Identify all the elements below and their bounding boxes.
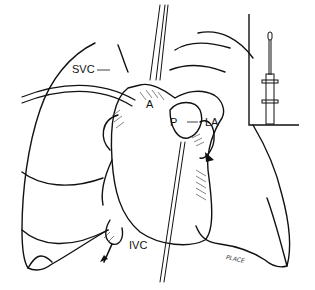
label-pulmonary: P bbox=[170, 117, 177, 128]
label-la: LA bbox=[205, 117, 218, 128]
label-svc: SVC bbox=[72, 64, 95, 75]
pulmonary-cannula bbox=[160, 142, 185, 282]
label-aorta: A bbox=[146, 99, 153, 110]
illustration: SVC A P LA IVC PLACE bbox=[0, 0, 315, 290]
left-lung-outline bbox=[198, 32, 253, 58]
heart-outline bbox=[111, 84, 223, 244]
heart-lung-drawing bbox=[0, 0, 315, 290]
label-ivc: IVC bbox=[129, 240, 147, 251]
cannula-instrument bbox=[262, 32, 278, 124]
